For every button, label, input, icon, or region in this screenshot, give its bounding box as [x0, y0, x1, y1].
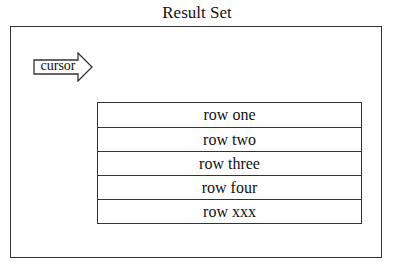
table-row: row three	[98, 151, 361, 175]
table-row: row two	[98, 127, 361, 151]
table-row: row xxx	[98, 199, 361, 223]
table-row: row one	[98, 103, 361, 127]
cursor-arrow: cursor	[33, 52, 93, 82]
cursor-label: cursor	[36, 58, 80, 74]
result-rows-table: row one row two row three row four row x…	[97, 102, 362, 224]
diagram-title: Result Set	[0, 3, 394, 23]
table-row: row four	[98, 175, 361, 199]
